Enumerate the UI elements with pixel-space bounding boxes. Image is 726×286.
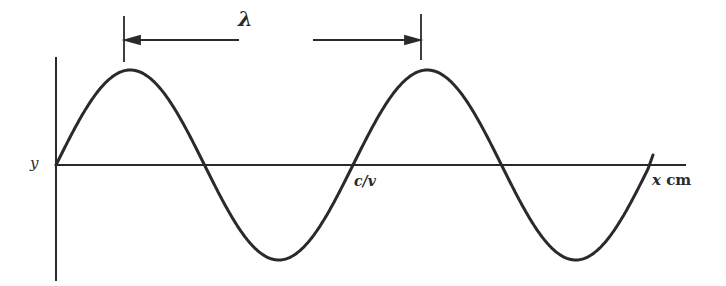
wavelength-label: λ xyxy=(238,6,253,31)
x-axis-unit: cm xyxy=(666,171,691,189)
y-axis-label: y xyxy=(30,154,38,172)
wave-diagram: y λ c/v x cm xyxy=(0,0,726,286)
x-axis-variable: x xyxy=(652,171,661,189)
arrow-right-icon xyxy=(405,36,420,44)
arrow-left-icon xyxy=(125,36,140,44)
wave-figure xyxy=(0,0,726,286)
crossing-label: c/v xyxy=(354,173,376,189)
wavelength-dimension xyxy=(124,14,421,62)
x-axis-label: x cm xyxy=(652,171,691,189)
